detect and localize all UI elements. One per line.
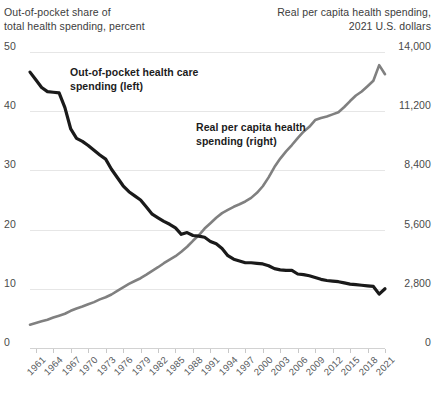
x-tick-label: 2021 bbox=[373, 354, 396, 377]
x-tick-label: 2003 bbox=[269, 354, 292, 377]
x-tick-mark bbox=[175, 349, 176, 353]
out-of-pocket-line bbox=[30, 72, 385, 294]
left-tick-label: 30 bbox=[4, 159, 16, 170]
x-tick-mark bbox=[333, 349, 334, 353]
left-tick-label: 10 bbox=[4, 278, 16, 289]
x-tick-mark bbox=[88, 349, 89, 353]
x-tick-label: 1979 bbox=[129, 354, 152, 377]
x-tick-mark bbox=[210, 349, 211, 353]
x-tick-label: 2000 bbox=[251, 354, 274, 377]
x-tick-mark bbox=[158, 349, 159, 353]
x-tick-mark bbox=[36, 349, 37, 353]
real-spending-annotation: Real per capita health spending (right) bbox=[196, 121, 306, 148]
series-paths bbox=[30, 52, 385, 348]
x-tick-mark bbox=[385, 349, 386, 353]
x-tick-label: 1970 bbox=[77, 354, 100, 377]
x-tick-label: 1973 bbox=[94, 354, 117, 377]
left-tick-label: 50 bbox=[4, 41, 16, 52]
x-tick-label: 1961 bbox=[24, 354, 47, 377]
x-tick-label: 2009 bbox=[304, 354, 327, 377]
x-tick-mark bbox=[53, 349, 54, 353]
x-tick-label: 1967 bbox=[59, 354, 82, 377]
x-tick-label: 1988 bbox=[181, 354, 204, 377]
left-tick-label: 20 bbox=[4, 219, 16, 230]
x-tick-mark bbox=[193, 349, 194, 353]
x-tick-mark bbox=[123, 349, 124, 353]
x-tick-label: 1976 bbox=[112, 354, 135, 377]
x-tick-label: 1982 bbox=[147, 354, 170, 377]
x-tick-label: 2015 bbox=[339, 354, 362, 377]
x-tick-mark bbox=[368, 349, 369, 353]
x-tick-mark bbox=[315, 349, 316, 353]
x-tick-label: 1997 bbox=[234, 354, 257, 377]
x-tick-mark bbox=[106, 349, 107, 353]
right-tick-label: 8,400 bbox=[385, 159, 431, 170]
x-tick-label: 2012 bbox=[321, 354, 344, 377]
x-tick-mark bbox=[298, 349, 299, 353]
x-axis-baseline bbox=[30, 348, 385, 349]
x-tick-mark bbox=[141, 349, 142, 353]
x-tick-mark bbox=[263, 349, 264, 353]
left-axis-title: Out-of-pocket share of total health spen… bbox=[4, 6, 145, 33]
x-tick-label: 2018 bbox=[356, 354, 379, 377]
x-tick-mark bbox=[280, 349, 281, 353]
x-tick-label: 2006 bbox=[286, 354, 309, 377]
real-spending-line bbox=[30, 65, 385, 325]
x-tick-label: 1991 bbox=[199, 354, 222, 377]
right-tick-label: 0 bbox=[385, 337, 431, 348]
x-tick-mark bbox=[350, 349, 351, 353]
left-tick-label: 0 bbox=[4, 337, 10, 348]
chart-figure: Out-of-pocket share of total health spen… bbox=[0, 0, 435, 396]
x-tick-mark bbox=[245, 349, 246, 353]
x-tick-mark bbox=[228, 349, 229, 353]
x-tick-label: 1985 bbox=[164, 354, 187, 377]
right-tick-label: 2,800 bbox=[385, 278, 431, 289]
x-tick-label: 1964 bbox=[42, 354, 65, 377]
left-tick-label: 40 bbox=[4, 100, 16, 111]
right-axis-title: Real per capita health spending, 2021 U.… bbox=[277, 6, 431, 33]
right-tick-label: 14,000 bbox=[385, 41, 431, 52]
x-tick-mark bbox=[71, 349, 72, 353]
x-tick-label: 1994 bbox=[216, 354, 239, 377]
out-of-pocket-annotation: Out-of-pocket health care spending (left… bbox=[70, 66, 198, 93]
right-tick-label: 11,200 bbox=[385, 100, 431, 111]
plot-area bbox=[30, 52, 385, 348]
right-tick-label: 5,600 bbox=[385, 219, 431, 230]
